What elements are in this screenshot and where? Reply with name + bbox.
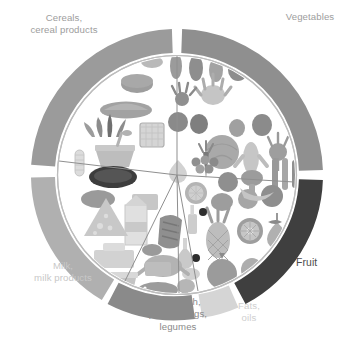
olive-dark-2-icon (192, 254, 200, 262)
cheese-slice-icon (145, 262, 171, 276)
orange-slice-icon (185, 182, 207, 204)
kiwi-slice-icon (237, 218, 263, 244)
green-beans-icon (272, 158, 298, 190)
red-pepper-icon (252, 114, 272, 136)
food-circle-svg (0, 0, 354, 358)
bread-roll-top (121, 74, 153, 88)
olive-dark-icon (199, 208, 207, 216)
sausage-icon (142, 244, 162, 256)
milk-carton-icon (125, 195, 147, 245)
ring-arc-fats (200, 296, 233, 306)
egg-icon (177, 279, 195, 293)
apple-veg-icon (218, 172, 238, 192)
beet-icon (190, 114, 208, 134)
potato-icon (229, 119, 245, 137)
tomato-icon (168, 112, 188, 132)
rye-bread-top (94, 169, 132, 183)
food-circle-diagram: Cereals, cereal products Vegetables Frui… (0, 0, 354, 358)
ring-arc-meat (113, 293, 193, 308)
